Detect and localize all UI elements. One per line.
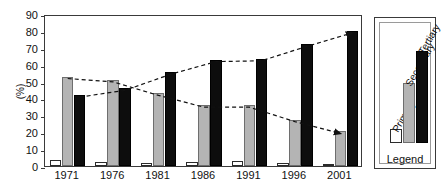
y-tick-mark — [41, 117, 45, 118]
bar-group-1976 — [95, 16, 131, 166]
bar-primary-1981[interactable] — [141, 163, 153, 166]
legend-swatch-tertiary[interactable] — [416, 51, 428, 143]
bar-tertiary-2001[interactable] — [347, 31, 359, 166]
bar-primary-1976[interactable] — [95, 162, 107, 166]
y-tick-50: 50 — [16, 77, 38, 88]
y-tick-mark — [41, 100, 45, 101]
bar-tertiary-1976[interactable] — [119, 88, 131, 166]
x-tick-1976: 1976 — [100, 169, 124, 182]
bar-secondary-1991[interactable] — [244, 105, 256, 166]
y-tick-30: 30 — [16, 111, 38, 122]
bar-tertiary-1986[interactable] — [210, 60, 222, 166]
y-tick-mark — [41, 151, 45, 152]
bar-tertiary-1996[interactable] — [301, 44, 313, 166]
bar-group-1991 — [232, 16, 268, 166]
bar-primary-1986[interactable] — [186, 162, 198, 166]
x-tick-1981: 1981 — [145, 169, 169, 182]
y-tick-mark — [41, 134, 45, 135]
y-axis-tick-labels: 9080706050403020100 — [12, 0, 38, 191]
y-tick-mark — [41, 67, 45, 68]
plot-area — [44, 15, 362, 167]
legend-swatch-secondary[interactable] — [403, 83, 415, 143]
x-tick-1986: 1986 — [191, 169, 215, 182]
bar-secondary-1996[interactable] — [289, 120, 301, 166]
legend-caption: Legend — [375, 153, 435, 166]
x-tick-1996: 1996 — [282, 169, 306, 182]
bar-tertiary-1981[interactable] — [165, 72, 177, 166]
y-tick-mark — [41, 33, 45, 34]
bar-tertiary-1971[interactable] — [74, 95, 86, 166]
y-tick-40: 40 — [16, 94, 38, 105]
bar-primary-2001[interactable] — [323, 164, 335, 166]
y-tick-80: 80 — [16, 26, 38, 37]
x-tick-1991: 1991 — [236, 169, 260, 182]
legend-box: PrimarySecondaryTertiary Legend — [374, 17, 436, 169]
bar-group-1981 — [141, 16, 177, 166]
bar-group-1986 — [186, 16, 222, 166]
x-tick-1971: 1971 — [54, 169, 78, 182]
y-tick-0: 0 — [16, 162, 38, 173]
bar-tertiary-1991[interactable] — [256, 59, 268, 166]
y-tick-70: 70 — [16, 43, 38, 54]
chart-figure: (%) 9080706050403020100 1971197619811986… — [0, 0, 448, 191]
legend-inner-frame: PrimarySecondaryTertiary — [379, 22, 431, 164]
x-tick-2001: 2001 — [327, 169, 351, 182]
y-tick-20: 20 — [16, 128, 38, 139]
bar-group-1971 — [50, 16, 86, 166]
y-tick-mark — [41, 84, 45, 85]
y-tick-mark — [41, 50, 45, 51]
y-tick-10: 10 — [16, 145, 38, 156]
bars-layer — [45, 16, 361, 166]
bar-group-1996 — [277, 16, 313, 166]
bar-primary-1991[interactable] — [232, 161, 244, 166]
x-axis-tick-labels: 1971197619811986199119962001 — [44, 169, 362, 185]
bar-secondary-1971[interactable] — [62, 77, 74, 167]
bar-primary-1971[interactable] — [50, 160, 62, 166]
bar-secondary-1981[interactable] — [153, 93, 165, 166]
y-tick-60: 60 — [16, 60, 38, 71]
y-tick-mark — [41, 16, 45, 17]
bar-group-2001 — [323, 16, 359, 166]
bar-secondary-1976[interactable] — [107, 80, 119, 166]
bar-secondary-1986[interactable] — [198, 105, 210, 166]
bar-secondary-2001[interactable] — [335, 131, 347, 166]
bar-primary-1996[interactable] — [277, 163, 289, 166]
y-tick-90: 90 — [16, 10, 38, 21]
